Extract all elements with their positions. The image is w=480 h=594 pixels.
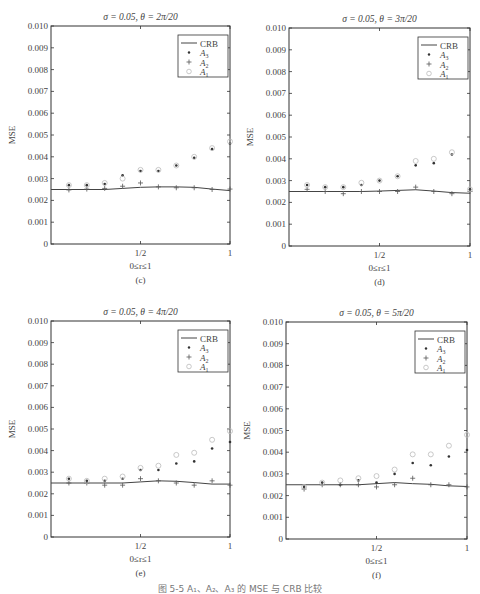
legend: CRBA3A2A1 bbox=[178, 35, 228, 78]
y-tick-label: 0.005 bbox=[266, 132, 287, 142]
a3-marker bbox=[411, 462, 414, 465]
a1-marker bbox=[413, 158, 418, 163]
y-tick-label: 0 bbox=[282, 241, 287, 251]
legend-subscript: 2 bbox=[443, 359, 446, 365]
chart-title: σ = 0.05, θ = 4π/20 bbox=[103, 307, 178, 317]
y-tick-label: 0.009 bbox=[266, 45, 287, 55]
chart-panel-f: σ = 0.05, θ = 5π/2000.0010.0020.0030.004… bbox=[240, 290, 480, 580]
y-tick-label: 0.009 bbox=[28, 43, 49, 53]
legend: CRBA3A2A1 bbox=[178, 330, 228, 373]
x-tick-label: 1 bbox=[228, 248, 233, 258]
a3-marker bbox=[86, 184, 89, 187]
y-tick-label: 0.009 bbox=[28, 338, 49, 348]
chart-title: σ = 0.05, θ = 2π/20 bbox=[103, 12, 178, 22]
a3-marker bbox=[175, 462, 178, 465]
y-tick-label: 0.004 bbox=[28, 152, 49, 162]
a1-marker bbox=[392, 467, 397, 472]
y-tick-label: 0.005 bbox=[28, 424, 49, 434]
a3-marker bbox=[306, 184, 309, 187]
a3-marker bbox=[68, 184, 71, 187]
y-tick-label: 0.007 bbox=[28, 381, 49, 391]
legend-dot-icon bbox=[188, 346, 190, 348]
a3-marker bbox=[430, 464, 433, 467]
a1-marker bbox=[174, 452, 179, 457]
y-tick-label: 0.002 bbox=[266, 197, 286, 207]
y-tick-label: 0.007 bbox=[28, 86, 49, 96]
legend-subscript: 3 bbox=[206, 53, 209, 59]
a3-marker bbox=[211, 447, 214, 450]
y-tick-label: 0.004 bbox=[28, 446, 49, 456]
legend: CRBA3A2A1 bbox=[415, 331, 465, 374]
a1-marker bbox=[446, 443, 451, 448]
a3-marker bbox=[324, 186, 327, 189]
a1-marker bbox=[156, 463, 161, 468]
legend-subscript: 3 bbox=[206, 348, 209, 354]
crb-line bbox=[51, 481, 230, 484]
a1-marker bbox=[120, 176, 125, 181]
y-tick-label: 0.008 bbox=[263, 360, 284, 370]
y-tick-label: 0.001 bbox=[263, 512, 283, 522]
y-tick-label: 0.010 bbox=[263, 317, 284, 327]
legend-subscript: 2 bbox=[446, 65, 449, 71]
x-axis-label: 0≤r≤1 bbox=[130, 554, 152, 564]
y-tick-label: 0.007 bbox=[266, 88, 287, 98]
a1-marker bbox=[338, 478, 343, 483]
a3-marker bbox=[68, 477, 71, 480]
panel-label: (c) bbox=[136, 275, 146, 285]
legend-label: CRB bbox=[200, 334, 218, 344]
chart-panel-d: σ = 0.05, θ = 3π/2000.0010.0020.0030.004… bbox=[240, 0, 480, 290]
a3-marker bbox=[396, 175, 399, 178]
chart-title: σ = 0.05, θ = 3π/20 bbox=[342, 14, 417, 24]
a1-marker bbox=[374, 474, 379, 479]
y-axis-label: MSE bbox=[7, 419, 17, 438]
a1-marker bbox=[192, 450, 197, 455]
y-tick-label: 0.001 bbox=[28, 217, 48, 227]
a3-marker bbox=[342, 186, 345, 189]
legend-label: CRB bbox=[437, 335, 455, 345]
a1-marker bbox=[410, 452, 415, 457]
y-tick-label: 0.006 bbox=[263, 404, 284, 414]
y-tick-label: 0.006 bbox=[28, 108, 49, 118]
x-tick-label: 1/2 bbox=[371, 543, 383, 553]
y-tick-label: 0 bbox=[44, 532, 49, 542]
y-tick-label: 0.002 bbox=[28, 195, 48, 205]
y-tick-label: 0.001 bbox=[266, 219, 286, 229]
y-tick-label: 0.010 bbox=[266, 23, 287, 33]
y-tick-label: 0.010 bbox=[28, 21, 49, 31]
y-tick-label: 0 bbox=[44, 239, 49, 249]
a3-marker bbox=[375, 481, 378, 484]
y-tick-label: 0 bbox=[279, 534, 284, 544]
y-tick-label: 0.003 bbox=[263, 469, 284, 479]
x-tick-label: 1/2 bbox=[135, 541, 147, 551]
panel-label: (e) bbox=[136, 568, 146, 578]
a3-marker bbox=[175, 164, 178, 167]
legend-subscript: 1 bbox=[443, 368, 446, 374]
crb-line bbox=[51, 187, 230, 191]
a1-marker bbox=[428, 452, 433, 457]
y-tick-label: 0.002 bbox=[263, 491, 283, 501]
y-tick-label: 0.006 bbox=[266, 110, 287, 120]
legend-subscript: 3 bbox=[446, 55, 449, 61]
chart-panel-c: σ = 0.05, θ = 2π/2000.0010.0020.0030.004… bbox=[0, 0, 240, 290]
y-tick-label: 0.009 bbox=[263, 339, 284, 349]
a3-marker bbox=[229, 441, 232, 444]
y-tick-label: 0.007 bbox=[263, 382, 284, 392]
legend-subscript: 1 bbox=[206, 72, 209, 78]
legend: CRBA3A2A1 bbox=[418, 37, 468, 80]
x-axis-label: 0≤r≤1 bbox=[130, 261, 152, 271]
legend-label: CRB bbox=[440, 41, 458, 51]
panel-label: (d) bbox=[374, 277, 385, 287]
y-tick-label: 0.010 bbox=[28, 316, 49, 326]
x-tick-label: 1 bbox=[465, 543, 470, 553]
legend-label: CRB bbox=[200, 39, 218, 49]
legend-subscript: 3 bbox=[443, 349, 446, 355]
legend-subscript: 1 bbox=[206, 367, 209, 373]
y-axis-label: MSE bbox=[7, 125, 17, 144]
a3-marker bbox=[433, 162, 436, 165]
y-tick-label: 0.004 bbox=[266, 154, 287, 164]
y-axis-label: MSE bbox=[242, 421, 252, 440]
chart-f-svg: σ = 0.05, θ = 5π/2000.0010.0020.0030.004… bbox=[240, 290, 480, 580]
legend-dot-icon bbox=[188, 51, 190, 53]
x-tick-label: 1 bbox=[228, 541, 233, 551]
a3-marker bbox=[448, 455, 451, 458]
